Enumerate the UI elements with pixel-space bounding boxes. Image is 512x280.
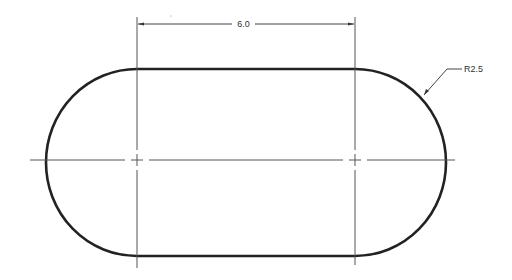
slot-outline — [46, 69, 446, 256]
slot-drawing: 6.0 R2.5 — [0, 0, 512, 280]
arrowhead-right-icon — [348, 23, 354, 26]
arrowhead-left-icon — [138, 23, 144, 26]
radius-dimension: R2.5 — [424, 64, 483, 95]
linear-dimension: 6.0 — [138, 19, 354, 29]
stray-mark — [170, 15, 171, 16]
radius-dimension-label: R2.5 — [464, 64, 483, 74]
linear-dimension-label: 6.0 — [237, 19, 250, 29]
